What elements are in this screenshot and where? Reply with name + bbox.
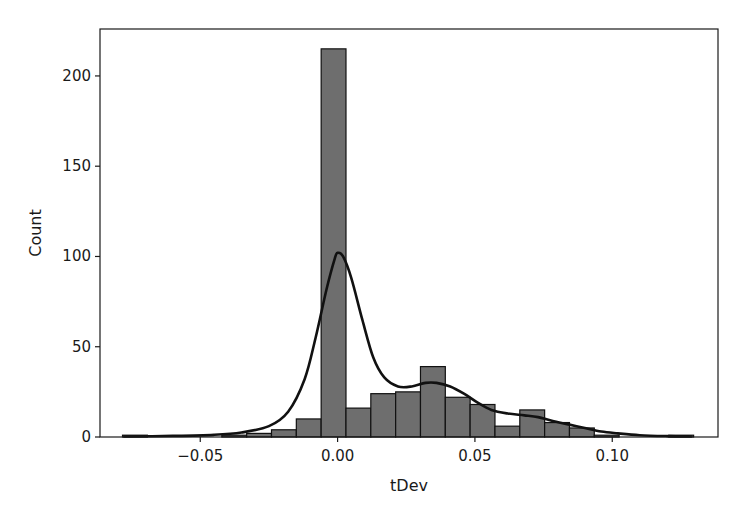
y-tick-label: 0 <box>81 428 91 446</box>
histogram-bar <box>272 430 297 437</box>
y-axis-ticks: 050100150200 <box>62 67 100 446</box>
histogram-chart: −0.050.000.050.10 050100150200 tDev Coun… <box>0 0 746 514</box>
y-tick-label: 50 <box>72 338 91 356</box>
histogram-bar <box>321 49 346 437</box>
histogram-bar <box>445 397 470 437</box>
x-tick-label: 0.05 <box>458 447 491 465</box>
x-axis-label: tDev <box>390 476 428 495</box>
histogram-bar <box>346 408 371 437</box>
histogram-bar <box>396 392 421 437</box>
y-tick-label: 200 <box>62 67 91 85</box>
y-axis-label: Count <box>26 209 45 257</box>
axes-frame <box>100 29 718 437</box>
histogram-bar <box>420 367 445 437</box>
histogram-bar <box>296 419 321 437</box>
x-tick-label: −0.05 <box>177 447 223 465</box>
y-tick-label: 150 <box>62 157 91 175</box>
x-tick-label: 0.10 <box>596 447 629 465</box>
histogram-bar <box>371 394 396 437</box>
x-axis-ticks: −0.050.000.050.10 <box>177 437 629 465</box>
histogram-bar <box>495 426 520 437</box>
histogram-bars <box>123 49 694 437</box>
x-tick-label: 0.00 <box>321 447 354 465</box>
y-tick-label: 100 <box>62 247 91 265</box>
